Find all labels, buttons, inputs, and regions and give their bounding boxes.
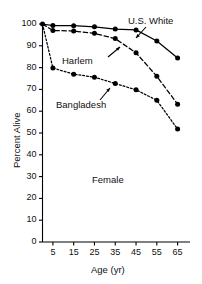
data-point (175, 102, 180, 107)
chart-figure: Percent Alive Age (yr) U.S. White Harlem… (0, 0, 202, 284)
y-axis-title: Percent Alive (11, 113, 22, 168)
data-point (154, 39, 159, 44)
data-point (92, 24, 97, 29)
data-point (134, 27, 139, 32)
data-point (92, 75, 97, 80)
data-point (175, 56, 180, 61)
data-point (92, 31, 97, 36)
data-point (175, 127, 180, 132)
data-point (50, 66, 55, 71)
y-tick-label: 90 (15, 40, 37, 50)
y-tick-label: 0 (15, 236, 37, 246)
data-point (50, 28, 55, 33)
y-tick-label: 80 (15, 62, 37, 72)
annotation-leaders (100, 27, 146, 100)
data-point (50, 23, 55, 28)
x-tick-label: 65 (168, 247, 188, 257)
x-axis-title: Age (yr) (91, 264, 125, 275)
x-tick-label: 25 (84, 247, 104, 257)
x-tick-label: 45 (126, 247, 146, 257)
data-point (113, 36, 118, 41)
y-tick-label: 20 (15, 192, 37, 202)
x-tick-label: 15 (64, 247, 84, 257)
data-point (154, 98, 159, 103)
x-tick-label: 35 (105, 247, 125, 257)
x-tick-label: 5 (43, 247, 63, 257)
x-tick-label: 55 (147, 247, 167, 257)
y-tick-label: 30 (15, 171, 37, 181)
data-point (71, 28, 76, 33)
series-label-us-white: U.S. White (128, 15, 173, 26)
series-label-bangladesh: Bangladesh (56, 99, 106, 110)
y-tick-label: 10 (15, 214, 37, 224)
data-series (40, 22, 180, 132)
y-tick-label: 60 (15, 105, 37, 115)
group-label-female: Female (92, 174, 124, 185)
y-tick-label: 70 (15, 83, 37, 93)
data-point (113, 27, 118, 32)
y-tick-label: 40 (15, 149, 37, 159)
y-tick-label: 50 (15, 127, 37, 137)
data-point (71, 23, 76, 28)
series-label-harlem: Harlem (62, 55, 93, 66)
data-point (134, 87, 139, 92)
data-point (134, 50, 139, 55)
data-point (113, 81, 118, 86)
y-tick-label: 100 (15, 18, 37, 28)
data-point (71, 72, 76, 77)
data-point (154, 74, 159, 79)
